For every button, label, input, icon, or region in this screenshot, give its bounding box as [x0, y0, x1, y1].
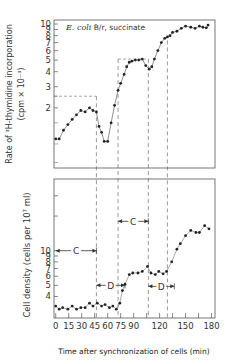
top-data-point: [198, 25, 201, 28]
bottom-data-point: [198, 231, 201, 234]
bottom-data-point: [157, 270, 160, 273]
bottom-data-point: [121, 289, 124, 292]
top-data-point: [153, 58, 156, 61]
top-series-line: [56, 25, 208, 141]
xtick-label: 0: [53, 321, 58, 331]
bottom-panel: 456789100153045607590120150180CDCD: [40, 196, 219, 331]
bottom-data-point: [146, 265, 149, 268]
bottom-data-point: [195, 231, 198, 234]
bottom-data-point: [92, 305, 95, 308]
bottom-data-point: [179, 242, 182, 245]
bottom-data-point: [137, 272, 140, 275]
top-panel-frame: [54, 20, 215, 168]
top-ytick-label: 5: [46, 55, 51, 65]
top-panel: 2345678910: [40, 19, 209, 318]
top-data-point: [163, 37, 166, 40]
bottom-data-point: [71, 305, 74, 308]
interval-label: C: [73, 246, 79, 256]
bottom-data-point: [208, 227, 211, 230]
xtick-label: 90: [128, 321, 139, 331]
top-data-point: [148, 68, 151, 71]
top-data-point: [71, 118, 74, 121]
bottom-data-point: [104, 303, 107, 306]
bottom-data-point: [162, 272, 165, 275]
top-data-point: [98, 125, 101, 128]
bottom-data-point: [58, 308, 61, 311]
bottom-ytick-label: 10: [40, 246, 51, 256]
top-data-point: [144, 64, 147, 67]
top-ylabel-line2: (cpm × 10⁻³): [17, 68, 26, 121]
xtick-label: 60: [102, 321, 113, 331]
top-data-point: [166, 36, 169, 39]
bottom-data-point: [154, 273, 157, 276]
top-ytick-label: 3: [46, 82, 51, 92]
bottom-data-point: [203, 224, 206, 227]
top-data-point: [128, 61, 131, 64]
arrow-left-icon: [118, 219, 122, 223]
top-data-point: [58, 138, 61, 141]
top-data-point: [180, 27, 183, 30]
top-ytick-label: 2: [46, 103, 51, 113]
xtick-label: 180: [203, 321, 219, 331]
interval-label: C: [130, 217, 136, 227]
xtick-label: 30: [76, 321, 87, 331]
top-data-point: [79, 109, 82, 112]
top-data-point: [137, 59, 140, 62]
top-data-point: [62, 129, 65, 132]
top-data-point: [160, 41, 163, 44]
top-data-point: [169, 34, 172, 37]
annotation-species: E. coli: [65, 23, 92, 32]
top-data-point: [176, 30, 179, 33]
arrow-right-icon: [92, 249, 96, 253]
top-ytick-label: 4: [46, 67, 51, 77]
bottom-series-line: [56, 226, 209, 310]
top-data-point: [207, 24, 210, 27]
top-data-point: [134, 59, 137, 62]
bottom-data-point: [141, 270, 144, 273]
annotation-rest: B/r, succinate: [91, 23, 145, 32]
top-data-point: [110, 121, 113, 124]
bottom-ytick-label: 4: [46, 291, 51, 301]
top-ylabel-line1: Rate of ³H-thymidine incorporation: [5, 24, 14, 163]
top-data-point: [194, 27, 197, 30]
top-data-point: [189, 26, 192, 29]
xtick-label: 120: [151, 321, 167, 331]
interval-label: D: [158, 282, 165, 292]
bottom-data-point: [88, 302, 91, 305]
bottom-data-point: [118, 302, 121, 305]
bottom-data-point: [124, 283, 127, 286]
bottom-data-point: [184, 234, 187, 237]
bottom-data-point: [84, 306, 87, 309]
top-data-point: [66, 123, 69, 126]
xtick-label: 75: [115, 321, 126, 331]
bottom-data-point: [108, 306, 111, 309]
top-data-point: [103, 140, 106, 143]
bottom-data-point: [61, 306, 64, 309]
bottom-data-point: [131, 272, 134, 275]
figure: 2345678910 45678910015304560759012015018…: [0, 0, 244, 363]
top-data-point: [88, 106, 91, 109]
top-data-point: [75, 113, 78, 116]
bottom-data-point: [115, 308, 118, 311]
bottom-data-point: [75, 308, 78, 311]
top-data-point: [54, 138, 57, 141]
bottom-data-point: [128, 273, 131, 276]
xtick-label: 150: [177, 321, 193, 331]
bottom-ytick-label: 5: [46, 280, 51, 290]
bottom-data-point: [100, 305, 103, 308]
top-data-point: [184, 25, 187, 28]
bottom-data-point: [54, 305, 57, 308]
top-data-point: [150, 65, 153, 68]
top-data-point: [84, 110, 87, 113]
top-data-point: [205, 26, 208, 29]
bottom-data-point: [189, 229, 192, 232]
arrow-left-icon: [96, 283, 100, 287]
arrow-right-icon: [144, 219, 148, 223]
top-data-point: [119, 82, 122, 85]
arrow-left-icon: [56, 249, 60, 253]
top-data-point: [201, 26, 204, 29]
bottom-data-point: [176, 248, 179, 251]
bottom-ylabel: Cell density (cells per 10⁷ ml): [22, 192, 32, 317]
bottom-data-point: [150, 272, 153, 275]
top-data-point: [125, 65, 128, 68]
